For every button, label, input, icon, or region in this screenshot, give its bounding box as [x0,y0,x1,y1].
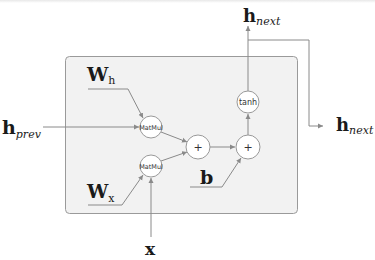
svg-text:MatMul: MatMul [139,163,163,171]
label-h-next-top: hnext [243,7,280,25]
label-h-next-top-sub: next [256,15,280,28]
label-w-x: Wx [87,182,115,201]
node-matmul-h: MatMul [139,116,163,138]
label-w-x-main: W [87,180,108,202]
svg-text:MatMul: MatMul [139,124,163,132]
label-w-h-main: W [87,63,108,85]
node-matmul-x: MatMul [139,155,163,177]
label-w-h-sub: h [108,74,115,87]
label-h-prev-sub: prev [16,128,41,141]
node-add-2: + [236,135,260,159]
svg-text:tanh: tanh [239,98,257,107]
label-x: x [145,241,155,258]
label-h-next-top-main: h [243,5,256,26]
label-h-next-right-sub: next [349,124,373,137]
node-tanh: tanh [237,91,259,113]
label-w-h: Wh [87,65,115,84]
label-b: b [200,168,213,187]
label-x-main: x [145,239,155,259]
diagram-canvas: MatMul MatMul + + tanh [0,0,375,260]
svg-text:+: + [243,141,252,154]
node-add-1: + [186,135,210,159]
label-h-next-right: hnext [336,116,373,134]
label-w-x-sub: x [108,192,114,205]
label-b-main: b [200,166,213,188]
label-h-prev: hprev [2,118,41,137]
label-h-next-right-main: h [336,114,349,135]
label-h-prev-main: h [2,116,16,138]
svg-text:+: + [193,141,202,154]
